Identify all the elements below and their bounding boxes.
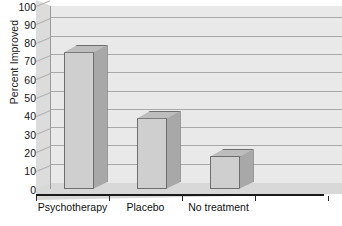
x-axis-tick-label: No treatment <box>159 201 279 213</box>
bar-front-face <box>210 156 240 189</box>
y-axis-tick-label: 70 <box>10 56 36 66</box>
bar <box>137 111 181 189</box>
gridline <box>50 17 342 18</box>
bar <box>64 45 108 189</box>
bar-chart: Percent Improved 0102030405060708090100 … <box>0 0 342 226</box>
y-axis-tick-label: 90 <box>10 20 36 30</box>
bar-side-face <box>166 111 181 189</box>
bar <box>210 149 254 189</box>
x-axis-line <box>36 194 324 196</box>
bar-front-face <box>137 118 167 189</box>
y-axis-tick-labels: 0102030405060708090100 <box>10 0 36 196</box>
y-axis-tick-label: 0 <box>10 185 36 195</box>
gridline <box>50 36 342 37</box>
bar-front-face <box>64 52 94 189</box>
plot-area <box>36 0 342 200</box>
y-axis-tick-label: 10 <box>10 166 36 176</box>
y-axis-tick-label: 100 <box>10 2 36 12</box>
y-axis-tick-label: 40 <box>10 111 36 121</box>
y-axis-tick-label: 60 <box>10 75 36 85</box>
y-axis-tick-label: 30 <box>10 130 36 140</box>
y-axis-tick-label: 80 <box>10 38 36 48</box>
y-axis-line <box>50 6 51 189</box>
bar-side-face <box>93 45 108 189</box>
y-axis-tick-label: 20 <box>10 148 36 158</box>
x-axis-tick-labels: PsychotherapyPlaceboNo treatment <box>0 201 342 219</box>
y-axis-tick-label: 50 <box>10 93 36 103</box>
